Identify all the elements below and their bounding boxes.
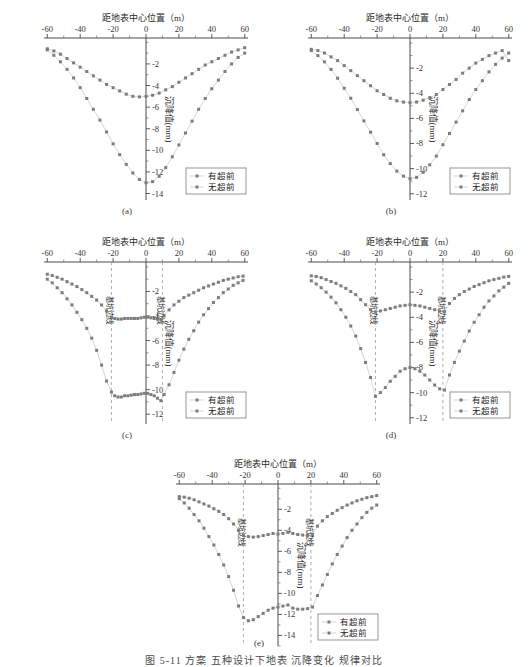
data-point xyxy=(230,62,233,65)
data-point xyxy=(330,280,333,283)
data-point xyxy=(217,57,220,60)
chart-panel-c: -60-40-200204060距地表中心位置（m）-2-4-6-8-10-12… xyxy=(8,228,256,438)
legend-label: 无超前 xyxy=(208,182,235,192)
data-point xyxy=(336,509,339,512)
data-point xyxy=(281,532,284,535)
data-point xyxy=(105,380,108,383)
y-tick-label: -2 xyxy=(416,63,423,73)
data-point xyxy=(483,306,486,309)
data-point xyxy=(163,393,166,396)
data-point xyxy=(66,57,69,60)
data-point xyxy=(112,86,115,89)
y-tick-label: -10 xyxy=(416,388,427,398)
data-point xyxy=(267,609,270,612)
data-point xyxy=(507,282,510,285)
x-tick-label: -60 xyxy=(42,24,53,34)
data-point xyxy=(325,291,328,294)
data-point xyxy=(359,347,362,350)
legend-label: 无超前 xyxy=(340,628,367,638)
data-point xyxy=(90,295,93,298)
x-tick-label: 60 xyxy=(504,248,513,258)
data-point xyxy=(126,317,129,320)
data-point xyxy=(473,285,476,288)
data-point xyxy=(336,553,339,556)
data-point xyxy=(164,166,167,169)
data-point xyxy=(112,142,115,145)
data-point xyxy=(413,367,416,370)
data-point xyxy=(232,589,235,592)
data-point xyxy=(133,317,136,320)
data-point xyxy=(296,533,299,536)
data-point xyxy=(46,273,49,276)
series-line-无超前 xyxy=(47,279,243,401)
legend-marker xyxy=(460,410,463,413)
data-point xyxy=(262,612,265,615)
data-point xyxy=(79,86,82,89)
y-tick-label: -14 xyxy=(284,630,296,640)
data-point xyxy=(223,70,226,73)
data-point xyxy=(501,49,504,52)
data-point xyxy=(247,619,250,622)
data-point xyxy=(281,605,284,608)
data-point xyxy=(404,367,407,370)
data-point xyxy=(376,89,379,92)
data-point xyxy=(310,274,313,277)
series-markers-无超前 xyxy=(46,278,245,403)
data-point xyxy=(481,58,484,61)
data-point xyxy=(365,511,368,514)
data-point xyxy=(56,276,59,279)
data-point xyxy=(242,616,245,619)
panel-caption-e: (e) xyxy=(239,638,279,648)
data-point xyxy=(257,615,260,618)
data-point xyxy=(242,275,245,278)
data-point xyxy=(291,607,294,610)
x-tick-label: -40 xyxy=(75,24,86,34)
data-point xyxy=(105,130,108,133)
data-point xyxy=(487,54,490,57)
data-point xyxy=(448,374,451,377)
data-point xyxy=(237,281,240,284)
data-point xyxy=(395,99,398,102)
data-point xyxy=(145,181,148,184)
data-point xyxy=(409,177,412,180)
data-point xyxy=(193,498,196,501)
data-point xyxy=(59,53,62,56)
data-point xyxy=(177,359,180,362)
x-tick-label: -20 xyxy=(107,24,118,34)
data-point xyxy=(507,52,510,55)
data-point xyxy=(423,306,426,309)
data-point xyxy=(311,533,314,536)
data-point xyxy=(433,308,436,311)
data-point xyxy=(394,306,397,309)
legend-marker xyxy=(460,186,463,189)
data-point xyxy=(163,315,166,318)
x-axis-title: 距地表中心位置（m） xyxy=(234,458,322,469)
data-point xyxy=(131,95,134,98)
y-tick-label: -4 xyxy=(416,88,424,98)
data-point xyxy=(286,603,289,606)
data-point xyxy=(497,289,500,292)
data-point xyxy=(159,318,162,321)
data-point xyxy=(126,394,129,397)
y-axis-title: 沉降值(mm) xyxy=(164,96,175,143)
data-point xyxy=(158,92,161,95)
data-point xyxy=(202,286,205,289)
data-point xyxy=(382,93,385,96)
data-point xyxy=(151,180,154,183)
data-point xyxy=(336,59,339,62)
data-point xyxy=(247,535,250,538)
data-point xyxy=(461,109,464,112)
data-point xyxy=(217,510,220,513)
data-point xyxy=(422,171,425,174)
panel-caption-c: (c) xyxy=(107,430,147,440)
y-tick-label: -8 xyxy=(416,138,423,148)
y-tick-label: -10 xyxy=(152,385,163,395)
panel-caption-b: (b) xyxy=(371,206,411,216)
data-point xyxy=(237,48,240,51)
x-tick-label: -40 xyxy=(207,470,218,480)
data-point xyxy=(242,279,245,282)
data-point xyxy=(474,62,477,65)
data-point xyxy=(75,285,78,288)
data-point xyxy=(306,607,309,610)
data-point xyxy=(441,143,444,146)
